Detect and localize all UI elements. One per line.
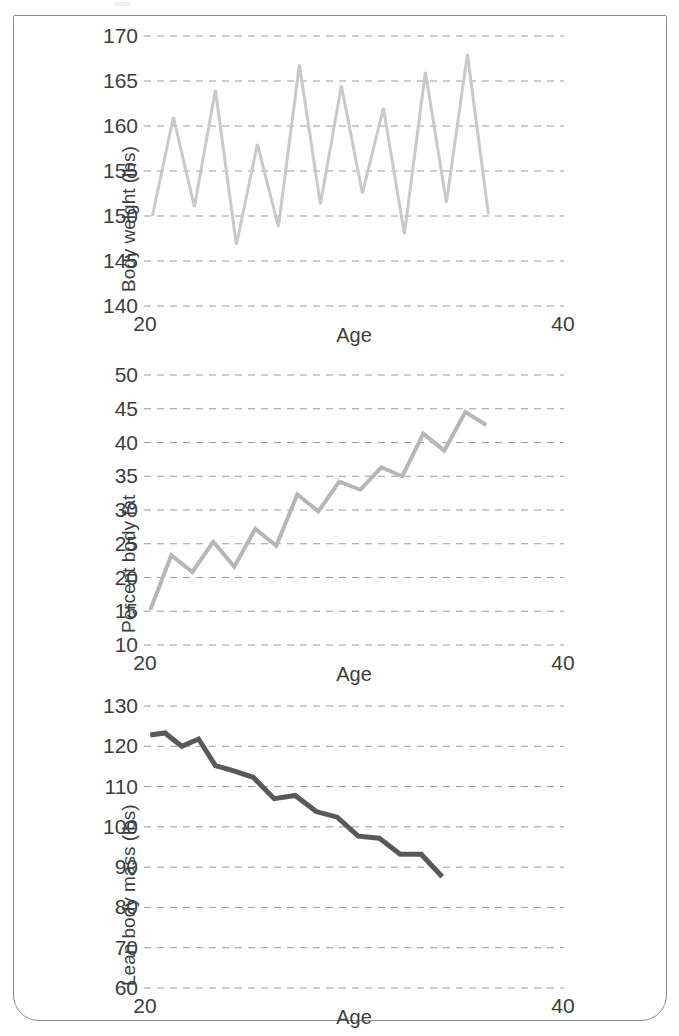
x-tick-right: 40 (551, 994, 574, 1018)
x-tick-left: 20 (133, 312, 156, 336)
x-axis-title: Age (336, 663, 372, 686)
chart-panel-percent-body-fat: Percent body fat 101520253035404550 20 4… (14, 361, 665, 691)
y-tick-label: 145 (103, 249, 138, 273)
y-tick-label: 25 (115, 532, 138, 556)
y-tick-label: 100 (103, 815, 138, 839)
y-tick-label: 70 (115, 936, 138, 960)
chart-panel-lean-body-mass: Lean body mass (lbs) 6070809010011012013… (14, 694, 665, 1014)
plot-area-percent-body-fat: 101520253035404550 (144, 375, 564, 645)
y-tick-label: 90 (115, 855, 138, 879)
x-tick-right: 40 (551, 651, 574, 675)
y-tick-label: 15 (115, 599, 138, 623)
y-tick-label: 160 (103, 114, 138, 138)
x-tick-right: 40 (551, 312, 574, 336)
y-tick-label: 20 (115, 566, 138, 590)
y-tick-label: 30 (115, 498, 138, 522)
y-tick-label: 170 (103, 24, 138, 48)
y-tick-label: 45 (115, 397, 138, 421)
figure-frame: Body weight (lbs) 140145150155160165170 … (13, 15, 667, 1021)
data-series-line (150, 733, 442, 877)
y-tick-label: 155 (103, 159, 138, 183)
y-tick-label: 165 (103, 69, 138, 93)
y-tick-label: 120 (103, 734, 138, 758)
plot-area-body-weight: 140145150155160165170 (144, 36, 564, 306)
y-tick-label: 35 (115, 464, 138, 488)
scan-artifact (115, 2, 131, 6)
x-tick-left: 20 (133, 651, 156, 675)
y-tick-label: 150 (103, 204, 138, 228)
x-axis-title: Age (336, 324, 372, 347)
chart-panel-body-weight: Body weight (lbs) 140145150155160165170 … (14, 24, 665, 354)
plot-svg (144, 375, 564, 645)
y-tick-label: 80 (115, 895, 138, 919)
y-tick-label: 40 (115, 431, 138, 455)
x-tick-left: 20 (133, 994, 156, 1018)
plot-svg (144, 36, 564, 306)
y-tick-label: 50 (115, 363, 138, 387)
data-series-line (150, 412, 486, 610)
x-axis-title: Age (336, 1006, 372, 1029)
plot-area-lean-body-mass: 60708090100110120130 (144, 706, 564, 988)
plot-svg (144, 706, 564, 988)
y-tick-label: 130 (103, 694, 138, 718)
y-tick-label: 110 (105, 775, 138, 799)
